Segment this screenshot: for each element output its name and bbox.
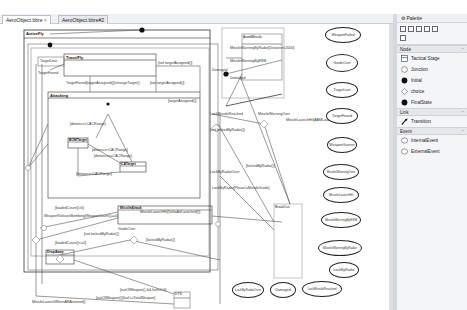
note-tool-icon[interactable] (432, 26, 438, 32)
transition-label: MissileWarningByRadar[Distance<2000] (230, 46, 294, 50)
transition-label: [loadedCount()>0] (55, 206, 84, 210)
marquee-tool-icon[interactable] (424, 26, 430, 32)
event-targetlost[interactable]: TargetLost (326, 82, 358, 98)
choice-icon (401, 88, 408, 95)
transition-label: Damaged (230, 76, 246, 80)
palette-entry-externalevent[interactable]: ExternalEvent (397, 146, 467, 157)
state-breakout[interactable]: BreakOut (275, 205, 289, 210)
diagram-canvas[interactable]: ActiveFly TravelFly Attacking BOMTarget … (0, 24, 392, 310)
palette-entry-tactical-stage[interactable]: Tactical Stage (397, 53, 467, 64)
select-tool-icon[interactable] (400, 26, 406, 32)
event-weaponfailed[interactable]: WeaponFailed (325, 27, 361, 43)
entry-label: ExternalEvent (411, 146, 440, 157)
state-attacking[interactable]: Attacking (50, 93, 68, 98)
zoom-in-tool-icon[interactable] (408, 26, 414, 32)
transition-label: [outOfWeapon()||fuel<=TotalWeapon] (96, 296, 155, 300)
internal-event-icon (401, 137, 408, 144)
finalstate-icon (401, 99, 408, 106)
tactical-stage-icon (401, 55, 408, 62)
tab-aeroobject-1[interactable]: AeroObject.bbre ☓ (2, 15, 51, 24)
event-lockbyradar[interactable]: LockByRadar (329, 262, 359, 278)
transition-label: [targetAssigned()] (168, 99, 196, 103)
drawer-title: Event (400, 129, 412, 134)
transition-label: LockMissileReached (210, 112, 243, 116)
state-avoidmissile[interactable]: AvoidMissile (243, 35, 262, 40)
event-missilewarningbyesm[interactable]: MissileWarningByESM (321, 212, 361, 228)
event-guideover[interactable]: GuideOver (326, 54, 358, 72)
palette-entry-initial[interactable]: Initial (397, 75, 467, 86)
transition-label: [loadedCount()<=0] (55, 241, 86, 245)
event-lockmissilereached[interactable]: LockMissileReached (302, 281, 342, 297)
transition-label: LockByRadarOver (210, 170, 239, 174)
palette-toolbar (397, 23, 467, 45)
entry-label: choice (411, 86, 424, 97)
transition-label: MissileWarningOver (258, 112, 290, 116)
transition-label: [not targetAssigned()] (150, 81, 184, 85)
drawer-header-event[interactable]: Event⌃ (397, 127, 467, 135)
transition-label: [not targetAssigned()] (158, 61, 192, 65)
palette-entry-transition[interactable]: Transition (397, 116, 467, 127)
entry-label: FinalState (411, 97, 432, 108)
label-targetfound-small: TargetFound (38, 71, 58, 75)
palette-entry-internalevent[interactable]: InternalEvent (397, 135, 467, 146)
chevron-icon: ⌃ (461, 46, 464, 54)
transition-label: [distance>CACRange] (92, 148, 128, 152)
editor-tab-bar: AeroObject.bbre ☓ AeroObject.bbre#2 (0, 14, 393, 24)
transition-label: TargetFound[targetAssigned()]/changeTarg… (66, 81, 140, 85)
initial-icon (401, 77, 408, 84)
state-activefly[interactable]: ActiveFly (26, 31, 44, 36)
transition-label: [lockedByRadar()] (146, 238, 175, 242)
external-event-icon (401, 148, 408, 155)
state-dts[interactable]: DTS (175, 292, 182, 297)
entry-label: Transition (411, 116, 431, 127)
drawer-title: Link (400, 110, 408, 115)
transition-arrow-icon (401, 118, 408, 125)
transition-label: [not lockedByRadar()] (84, 232, 119, 236)
palette-header: ⚙ Palette (397, 14, 467, 23)
junction-icon (401, 66, 408, 73)
chevron-icon: ⌃ (461, 109, 464, 117)
entry-label: Tactical Stage (411, 53, 440, 64)
tab-aeroobject-2[interactable]: AeroObject.bbre#2 (58, 15, 108, 24)
drawer-header-node[interactable]: Node⌃ (397, 45, 467, 53)
palette-panel: ⚙ Palette Node⌃ Tactical Stage Junction … (393, 14, 467, 310)
state-catarget[interactable]: CATarget (121, 162, 136, 167)
entry-label: Initial (411, 75, 422, 86)
palette-drawer-node: Node⌃ Tactical Stage Junction Initial ch… (397, 45, 467, 157)
zoom-out-tool-icon[interactable] (416, 26, 422, 32)
transition-label: [outOfWeapon() && fuel<0.6] (120, 288, 166, 292)
event-missilewarningover[interactable]: MissileWarningOver (323, 164, 359, 180)
state-travelfly[interactable]: TravelFly (66, 55, 83, 60)
chevron-icon: ⌃ (461, 128, 464, 136)
state-dropaway[interactable]: DropAway (47, 250, 64, 255)
entry-label: Junction (411, 64, 428, 75)
transition-label: LockByRadar[Phase!=MissileGuide] (212, 186, 269, 190)
transition-label: [not lockedByRadar()] (210, 128, 245, 132)
event-weapongunner[interactable]: WeaponGunner (327, 137, 357, 153)
transition-label: Damaged (212, 68, 228, 72)
palette-entry-junction[interactable]: Junction (397, 64, 467, 75)
event-targetfound[interactable]: TargetFound (326, 108, 358, 124)
entry-label: InternalEvent (411, 135, 438, 146)
event-lockbyradarover[interactable]: LockByRadarOver (232, 282, 264, 298)
event-damaged[interactable]: Damaged (270, 282, 296, 298)
drawer-title: Node (400, 47, 411, 52)
format-tool-icon[interactable] (400, 35, 406, 41)
state-missileattack[interactable]: MissileAttack (120, 206, 142, 211)
transition-label: [distance>CACRange] (70, 122, 106, 126)
transition-label: [distance<=CACRange] (94, 154, 132, 158)
state-bomtarget[interactable]: BOMTarget (69, 138, 87, 143)
transition-label: [lockedByRadar()] (246, 164, 275, 168)
transition-label: WeaponReleaseBombing[WeaponCount()==0] (44, 214, 118, 218)
palette-title: Palette (406, 15, 422, 21)
drawer-header-link[interactable]: Link⌃ (397, 108, 467, 116)
transition-label: MissileLaunchWhenAMAssisted() (32, 300, 86, 304)
palette-entry-finalstate[interactable]: FinalState (397, 97, 467, 108)
state-targetlost-inner[interactable]: TargetLost (40, 59, 57, 63)
event-missilelaunchhit[interactable]: MissileLaunchHit (323, 187, 359, 203)
transition-label: MissileLaunchHit[DeltaAttLaunched()] (140, 210, 200, 214)
transition-label: [distance>CACRange] (76, 172, 112, 176)
palette-entry-choice[interactable]: choice (397, 86, 467, 97)
editor-window: AeroObject.bbre ☓ AeroObject.bbre#2 (0, 0, 467, 310)
event-missilewarningbyradar[interactable]: MissileWarningByRadar (318, 240, 362, 256)
